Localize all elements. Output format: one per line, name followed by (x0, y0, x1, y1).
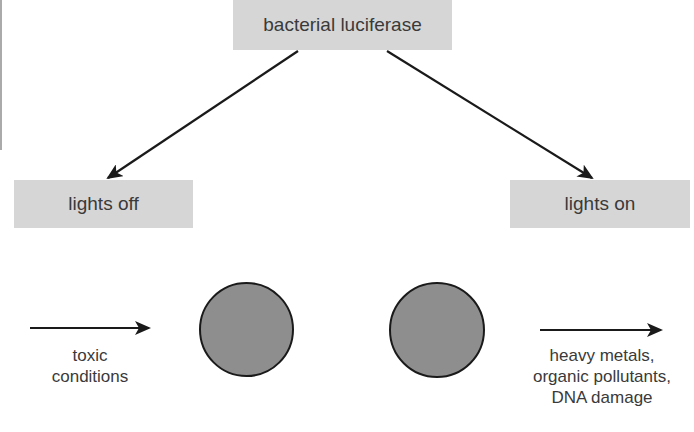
label-line: organic pollutants, (510, 366, 694, 387)
arrow-to-lights-off (108, 51, 298, 178)
label-heavy-metals: heavy metals, organic pollutants, DNA da… (510, 345, 694, 408)
cell-circle-right (389, 282, 485, 378)
label-line: heavy metals, (510, 345, 694, 366)
label-line: toxic (30, 345, 150, 366)
label-toxic-conditions: toxic conditions (30, 345, 150, 387)
arrow-to-lights-on (387, 51, 592, 178)
label-line: conditions (30, 366, 150, 387)
cell-circle-left (199, 282, 294, 377)
label-line: DNA damage (510, 387, 694, 408)
